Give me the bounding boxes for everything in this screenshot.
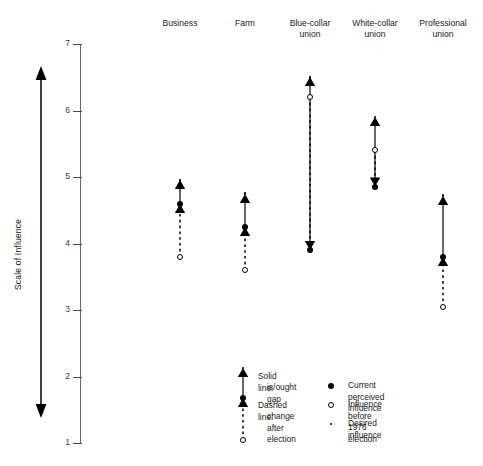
column-header-4: Professional union [405, 18, 481, 40]
axis-tick-mark-5 [73, 177, 82, 178]
desired-influence-marker-2 [309, 76, 312, 79]
axis-tick-label-3: 3 [56, 304, 70, 314]
axis-tick-mark-4 [73, 244, 82, 245]
dashed-line-legend-detail: change after election [267, 411, 296, 446]
axis-tick-mark-3 [73, 310, 82, 311]
legend-marker-filled-dot [328, 383, 334, 389]
current-influence-marker-3 [372, 184, 378, 190]
prior-influence-marker-4 [440, 304, 446, 310]
axis-tick-label-7: 7 [56, 38, 70, 48]
legend-marker-small-dot [330, 423, 333, 426]
column-header-3: White-collar union [337, 18, 413, 40]
axis-tick-label-5: 5 [56, 171, 70, 181]
axis-tick-label-1: 1 [56, 437, 70, 447]
legend-marker-open-circle [328, 402, 334, 408]
axis-tick-mark-6 [73, 111, 82, 112]
desired-influence-marker-0 [179, 179, 182, 182]
axis-tick-label-2: 2 [56, 371, 70, 381]
current-influence-marker-4 [440, 254, 446, 260]
current-influence-marker-1 [242, 224, 248, 230]
change-after-election-arrow-2 [302, 85, 318, 262]
figure-canvas: Scale of Influence 7654321 BusinessFarmB… [0, 0, 483, 466]
axis-tick-mark-7 [73, 44, 82, 45]
current-influence-marker-0 [177, 201, 183, 207]
legend-label-2: Desired influence [348, 418, 382, 441]
axis-tick-mark-1 [73, 443, 82, 444]
prior-influence-marker-0 [177, 254, 183, 260]
legend-sample-open-circle [240, 437, 246, 443]
y-axis-title: Scale of Influence [13, 219, 23, 290]
axis-tick-label-6: 6 [56, 105, 70, 115]
axis-tick-label-4: 4 [56, 238, 70, 248]
legend-sample-filled-dot [240, 395, 246, 401]
scale-direction-arrow [30, 66, 52, 418]
axis-tick-mark-2 [73, 377, 82, 378]
